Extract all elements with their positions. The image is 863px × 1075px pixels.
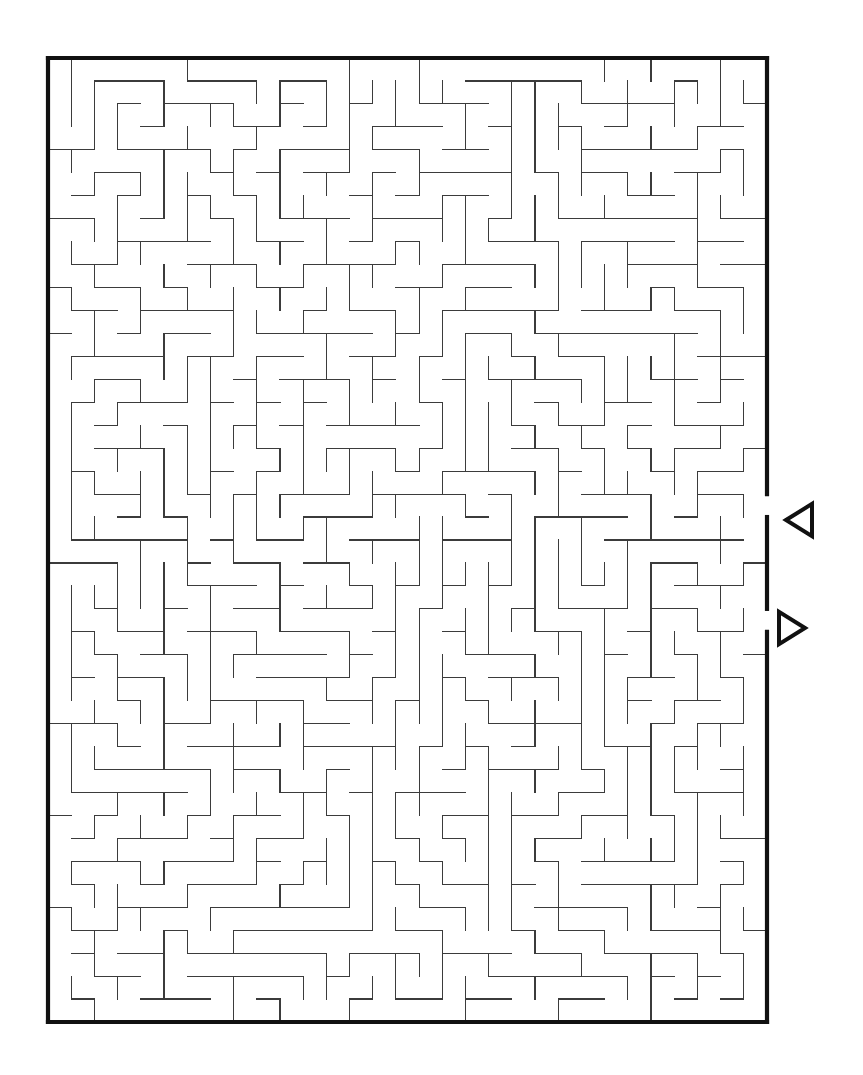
maze-page xyxy=(0,0,863,1075)
page-background xyxy=(0,0,863,1075)
maze-canvas xyxy=(0,0,863,1075)
